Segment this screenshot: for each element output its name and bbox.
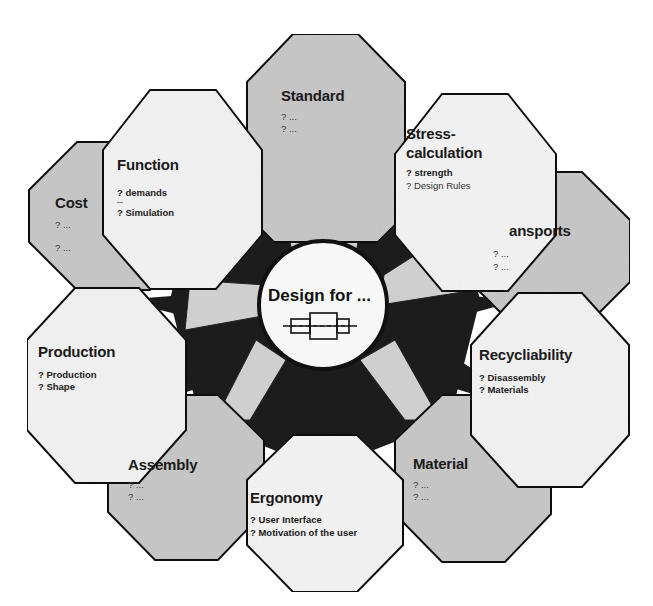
node-title-recyclability: Recycliability: [479, 346, 572, 363]
node-item: ? Motivation of the user: [250, 527, 357, 539]
node-title-assembly: Assembly: [128, 456, 197, 473]
node-item: ? ...: [281, 111, 297, 123]
node-item: ? ...: [128, 479, 144, 491]
node-item: ? Simulation: [117, 207, 174, 219]
node-item: ? Shape: [38, 381, 75, 393]
node-item: ? Production: [38, 369, 97, 381]
node-title-transports: ansports: [509, 222, 571, 239]
node-title-ergonomy: Ergonomy: [250, 489, 323, 506]
node-item: ? strength: [406, 167, 452, 179]
node-title-material: Material: [413, 455, 468, 472]
node-item: ? ...: [281, 123, 297, 135]
node-title-function: Function: [117, 156, 179, 173]
node-item: ? ...: [493, 248, 509, 260]
node-item: ? User Interface: [250, 514, 322, 526]
node-title-stress-2: calculation: [406, 144, 482, 161]
node-title-stress: Stress-: [406, 125, 455, 142]
node-item: ? ...: [493, 261, 509, 273]
center-label: Design for ...: [268, 286, 371, 306]
node-title-cost: Cost: [55, 194, 88, 211]
node-item: ? Disassembly: [479, 372, 546, 384]
node-stress-calculation[interactable]: [395, 94, 556, 291]
node-item: ? Materials: [479, 384, 529, 396]
node-title-standard: Standard: [281, 87, 344, 104]
node-item: ...: [117, 197, 123, 205]
node-item: ? ...: [55, 242, 71, 254]
node-item: ? ...: [413, 479, 429, 491]
node-item: ? demands: [117, 187, 167, 199]
node-item: ? ...: [128, 491, 144, 503]
node-item: ? ...: [55, 219, 71, 231]
node-title-production: Production: [38, 343, 115, 360]
node-standard[interactable]: [247, 34, 405, 242]
node-item: ? ...: [413, 491, 429, 503]
node-item: ? Design Rules: [406, 180, 470, 192]
